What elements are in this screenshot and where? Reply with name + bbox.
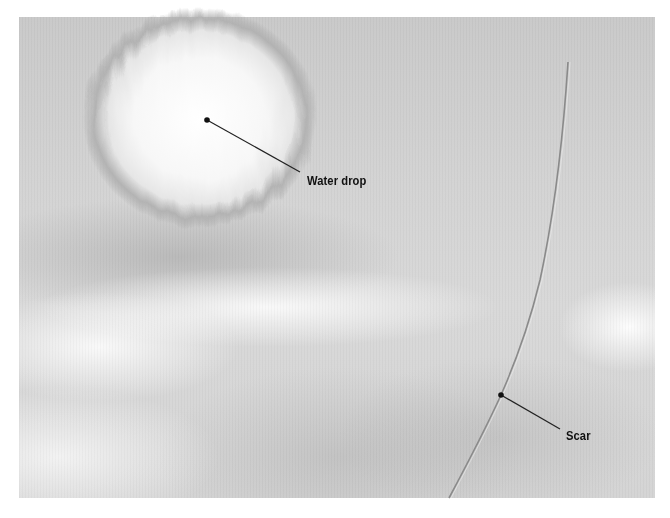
scar-line [449, 62, 568, 498]
callout-dot [204, 117, 210, 123]
callout-dot [498, 392, 504, 398]
label-water-drop: Water drop [307, 173, 366, 188]
label-scar: Scar [566, 428, 591, 443]
water-drop [82, 8, 318, 228]
leader-line [501, 395, 560, 429]
callout-scar [498, 392, 560, 429]
